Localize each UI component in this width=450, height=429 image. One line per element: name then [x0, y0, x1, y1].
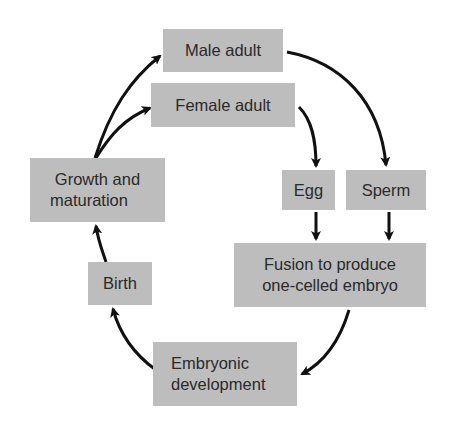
node-growth-and-maturation: Growth and maturation [30, 158, 165, 222]
node-label: Egg [294, 180, 323, 201]
arrow-fusion-to-embryonic [302, 310, 349, 374]
node-label: Birth [103, 273, 137, 294]
node-label: Sperm [362, 180, 411, 201]
node-sperm: Sperm [346, 170, 426, 210]
node-embryonic-development: Embryonic development [153, 342, 297, 406]
node-egg: Egg [282, 170, 335, 210]
arrow-female-to-egg [299, 107, 316, 166]
node-label-line1: Growth and [55, 169, 140, 190]
arrow-birth-to-growth [96, 226, 106, 262]
arrow-embryonic-to-birth [113, 309, 156, 370]
node-male-adult: Male adult [163, 29, 283, 72]
node-birth: Birth [88, 262, 152, 305]
node-label-line2: one-celled embryo [262, 275, 398, 296]
node-female-adult: Female adult [151, 83, 295, 127]
node-label-line2: development [171, 374, 265, 395]
node-label-line1: Embryonic [171, 353, 249, 374]
node-label: Female adult [175, 95, 270, 116]
node-label: Male adult [185, 40, 261, 61]
node-label-line1: Fusion to produce [264, 254, 396, 275]
node-label-line2: maturation [30, 190, 128, 211]
node-fusion: Fusion to produce one-celled embryo [234, 243, 426, 307]
